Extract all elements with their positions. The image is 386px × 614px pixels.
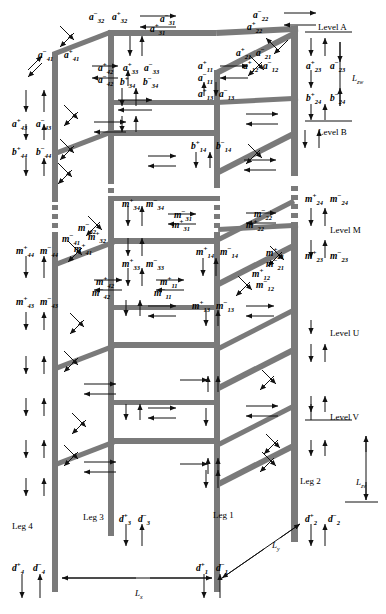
column-break-leg3-a — [108, 170, 114, 175]
wave-label-m42-minus: m−42 — [92, 287, 110, 301]
beam-levelA-back — [52, 30, 112, 57]
wave-label-a11-minus: a−11 — [198, 72, 213, 86]
wave-label-b44-plus: b+44 — [12, 146, 27, 160]
leg-label-3: Leg 3 — [83, 512, 104, 522]
wave-label-a31-plus: a+31 — [150, 23, 165, 37]
wave-label-d1-plus: d+1 — [196, 562, 208, 576]
wave-label-b44-minus: b−44 — [36, 146, 51, 160]
column-leg4 — [52, 52, 58, 202]
level-label-U: Level U — [330, 328, 359, 338]
column-break-leg3-c — [108, 188, 114, 193]
beam-levelU-left-diag — [55, 344, 115, 371]
figure-canvas: a−32a+32a−31a+31a−22a+22a−41a+41a+42a−42… — [0, 0, 386, 614]
wave-label-d4-minus: d−4 — [33, 562, 45, 576]
column-leg3 — [108, 30, 114, 180]
beam-levelB-left-diag — [52, 130, 112, 157]
column-break-leg2-d — [291, 213, 298, 218]
beam-levelM-front — [110, 238, 218, 244]
wave-label-m14-minus: m−14 — [220, 246, 238, 260]
wave-label-a41-minus: a−41 — [38, 49, 53, 63]
leg-label-4: Leg 4 — [12, 521, 33, 531]
column-break-leg2-a — [291, 186, 298, 191]
beam-levelV-front — [110, 438, 218, 444]
leg-label-1: Leg 1 — [213, 510, 234, 520]
wave-label-b14-plus: b+14 — [191, 140, 206, 154]
wave-label-m43-plus: m+43 — [16, 296, 34, 310]
wave-label-m44-minus: m−44 — [40, 245, 58, 259]
column-break-leg4-a — [52, 205, 58, 210]
wave-label-m44-plus: m+44 — [16, 245, 34, 259]
beam-levelU-front — [110, 342, 218, 348]
wave-label-m24-plus: m+24 — [305, 193, 323, 207]
beam-levelU-right-diag — [216, 347, 294, 391]
wave-label-b24-minus: b−24 — [330, 92, 345, 106]
wave-label-m34-minus: m−34 — [146, 198, 164, 212]
beam-levelV-left-diag — [55, 440, 115, 467]
wave-label-m14-plus: m+14 — [196, 246, 214, 260]
wave-label-m23-plus: m+23 — [305, 250, 323, 264]
column-break-leg1-b — [214, 205, 220, 210]
beam-levelU-upper-diag — [218, 308, 295, 351]
wave-label-d3-plus: d+3 — [119, 513, 131, 527]
level-label-A: Level A — [318, 22, 347, 32]
wave-label-a12-minus: a−12 — [263, 60, 278, 74]
column-leg2-lower — [291, 222, 298, 542]
wave-label-a33-plus: a+33 — [123, 62, 138, 76]
wave-label-m13-minus: m−13 — [216, 300, 234, 314]
wave-label-a12-plus: a+12 — [243, 60, 258, 74]
wave-label-a21-minus: a−21 — [256, 47, 271, 61]
wave-label-d1-minus: d−1 — [216, 562, 228, 576]
column-break-leg4-c — [52, 223, 58, 228]
column-break-leg4-f — [52, 336, 58, 341]
Ly-dim-lower — [222, 549, 264, 578]
wave-label-m23-minus: m−23 — [330, 250, 348, 264]
wave-label-a21-plus: a+21 — [236, 47, 251, 61]
wave-label-d2-minus: d−2 — [328, 513, 340, 527]
wave-label-m11-minus: m−11 — [154, 287, 172, 301]
beam-levelV-right-diag — [216, 443, 294, 487]
column-break-leg3-b — [108, 179, 114, 184]
wave-label-a13-plus: a+13 — [198, 88, 213, 102]
wave-label-m31-plus: m+31 — [172, 219, 190, 233]
wave-label-m13-plus: m+13 — [192, 300, 210, 314]
level-label-M: Level M — [330, 225, 361, 235]
dimension-label-Ly: Ly — [272, 540, 280, 552]
beam-levelV-upper-diag — [218, 404, 295, 447]
leg-label-2: Leg 2 — [300, 476, 321, 486]
wave-label-m34-plus: m+34 — [122, 198, 140, 212]
wave-label-a22-plus: a+22 — [247, 21, 262, 35]
beam-levelV-upper-front — [110, 400, 218, 405]
dimension-label-Lx: Lx — [135, 588, 143, 600]
wave-label-m12-minus: m−12 — [256, 279, 274, 293]
column-break-leg4-b — [52, 214, 58, 219]
wave-label-m24-minus: m−24 — [330, 193, 348, 207]
column-break-leg4-d — [52, 318, 58, 323]
wave-label-b34-minus: b−34 — [143, 76, 158, 90]
wave-label-m41-plus: m+41 — [74, 243, 92, 257]
wave-label-a13-minus: a−13 — [219, 88, 234, 102]
wave-label-m33-plus: m+33 — [122, 258, 140, 272]
wave-label-b24-plus: b+24 — [306, 92, 321, 106]
wave-label-a41-plus: a+41 — [64, 49, 79, 63]
wave-label-a32-minus: a−32 — [89, 11, 104, 25]
wave-label-a43-plus: a+43 — [12, 118, 27, 132]
wave-label-a32-plus: a+32 — [112, 11, 127, 25]
wave-label-d3-minus: d−3 — [138, 513, 150, 527]
wave-label-a43-minus: a−43 — [36, 118, 51, 132]
wave-label-a33-minus: a−33 — [144, 62, 159, 76]
wave-label-m43-minus: m−43 — [40, 296, 58, 310]
wave-label-a23-minus: a−23 — [330, 60, 345, 74]
wave-label-a42-minus: a−42 — [98, 74, 113, 88]
dimension-label-Lzv: Lzv — [356, 477, 366, 489]
Ly-dim-line — [222, 524, 300, 578]
dimension-label-Lzw: Lzw — [352, 73, 363, 85]
wave-label-m22-plus: m+22 — [246, 219, 264, 233]
column-leg3-lower — [108, 196, 114, 536]
column-break-leg4-e — [52, 327, 58, 332]
wave-label-a23-plus: a+23 — [306, 60, 321, 74]
beam-levelB-front — [108, 130, 218, 136]
level-label-V: Level V — [330, 412, 359, 422]
wave-label-m33-minus: m−33 — [146, 258, 164, 272]
wave-label-b34-plus: b+34 — [120, 76, 135, 90]
wave-label-d4-plus: d+4 — [12, 562, 24, 576]
